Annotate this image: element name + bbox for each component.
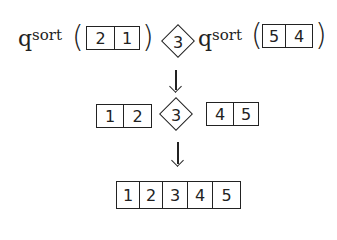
array-right-sorted: 4 5 [206, 102, 259, 126]
down-arrow-icon [170, 70, 182, 94]
pivot-diamond-step1: 3 [162, 26, 194, 58]
qsort-q: q [198, 26, 212, 51]
array-cell: 1 [97, 105, 124, 127]
array-cell: 5 [213, 182, 240, 208]
array-result-sorted: 1 2 3 4 5 [116, 181, 241, 209]
array-cell: 4 [286, 25, 312, 47]
pivot-value: 3 [160, 106, 192, 125]
qsort-sort: sort [212, 26, 242, 44]
open-paren-left: ( [72, 22, 84, 52]
array-cell: 4 [188, 182, 213, 208]
array-cell: 5 [234, 103, 258, 125]
array-cell: 1 [117, 182, 140, 208]
open-paren-right: ( [251, 20, 263, 50]
array-cell: 2 [87, 27, 115, 49]
array-cell: 4 [207, 103, 234, 125]
array-cell: 5 [263, 25, 286, 47]
down-arrow-icon [172, 142, 184, 168]
qsort-q: q [18, 26, 32, 51]
qsort-sort: sort [32, 26, 62, 44]
pivot-diamond-step2: 3 [160, 98, 192, 130]
close-paren-right: ) [315, 20, 327, 50]
array-cell: 3 [163, 182, 188, 208]
qsort-call-left-label: qsort [18, 28, 62, 50]
array-left-unsorted: 2 1 [86, 26, 140, 50]
array-cell: 2 [140, 182, 163, 208]
close-paren-left: ) [142, 22, 154, 52]
pivot-value: 3 [162, 33, 194, 52]
qsort-call-right-label: qsort [198, 28, 242, 50]
array-left-sorted: 1 2 [96, 104, 152, 128]
array-right-unsorted: 5 4 [262, 24, 313, 48]
array-cell: 2 [124, 105, 151, 127]
array-cell: 1 [115, 27, 139, 49]
